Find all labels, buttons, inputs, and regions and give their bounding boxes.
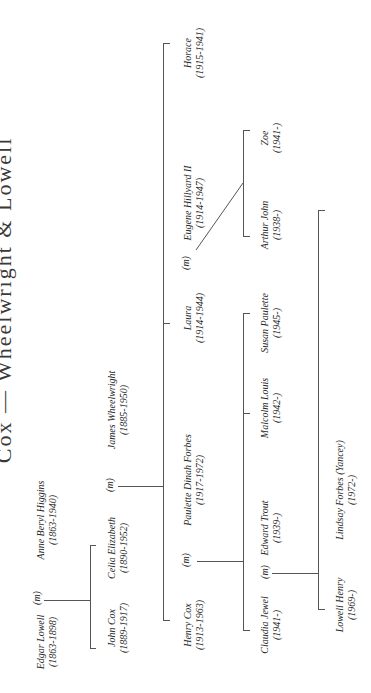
- person-edgar-lowell: Edgar Lowell (1863-1898): [35, 615, 58, 670]
- person-name: Celia Elizabeth: [106, 517, 118, 579]
- chart-title: Cox — Wheelwright & Lowell: [0, 137, 17, 464]
- person-dates: (1941-): [270, 123, 282, 153]
- sibling-bracket: [90, 545, 91, 649]
- person-name: Edgar Lowell: [35, 615, 47, 670]
- person-dates: (1914-1944): [193, 293, 205, 343]
- person-name: Paulette Dinah Forbes: [182, 434, 194, 526]
- sibling-bracket: [318, 210, 319, 610]
- marriage-label: (m): [259, 565, 271, 579]
- person-name: Anne Beryl Higgins: [35, 481, 47, 560]
- person-name: Edward Trout: [259, 500, 271, 555]
- person-dates: (1863-1940): [46, 481, 58, 560]
- person-celia-elizabeth: Celia Elizabeth (1890-1952): [106, 517, 129, 579]
- person-name: Eugene Hillyard II: [182, 165, 194, 240]
- sibling-bracket: [243, 313, 244, 631]
- person-dates: (1942-): [270, 378, 282, 438]
- marriage-line: [197, 561, 243, 562]
- person-dates: (1969-): [345, 578, 357, 633]
- bracket-tick: [90, 648, 96, 649]
- person-james-wheelwright: James Wheelwright (1885-1950): [106, 371, 129, 450]
- bracket-tick: [243, 236, 250, 237]
- person-dates: (1945-): [270, 293, 282, 353]
- person-zoe: Zoe (1941-): [259, 123, 282, 153]
- bracket-tick: [243, 413, 250, 414]
- sibling-bracket: [163, 43, 164, 621]
- person-anne-beryl-higgins: Anne Beryl Higgins (1863-1940): [35, 481, 58, 560]
- person-dates: (1885-1950): [117, 371, 129, 450]
- person-name: Arthur John: [259, 201, 271, 250]
- person-malcolm-louis: Malcolm Louis (1942-): [259, 378, 282, 438]
- person-dates: (1938-): [270, 201, 282, 250]
- bracket-tick: [243, 630, 250, 631]
- marriage-label: (m): [180, 553, 192, 567]
- person-name: Laura: [182, 293, 194, 343]
- person-laura: Laura (1914-1944): [182, 293, 205, 343]
- person-claudia-jewel: Claudia Jewel (1941-): [259, 596, 282, 654]
- bracket-tick: [318, 210, 325, 211]
- person-dates: (1915-1941): [193, 28, 205, 78]
- person-henry-cox: Henry Cox (1913-1963): [182, 600, 205, 650]
- bracket-tick: [90, 545, 96, 546]
- bracket-tick: [243, 313, 250, 314]
- person-lindsay-forbes-yancey: Lindsay Forbes (Yancey) (1972-): [334, 440, 357, 540]
- bracket-tick: [163, 620, 170, 621]
- person-arthur-john: Arthur John (1938-): [259, 201, 282, 250]
- person-dates: (1941-): [270, 596, 282, 654]
- person-edward-trout: Edward Trout (1939-): [259, 500, 282, 555]
- bracket-tick: [163, 323, 170, 324]
- bracket-tick: [318, 609, 325, 610]
- person-dates: (1863-1898): [46, 615, 58, 670]
- person-dates: (1890-1952): [117, 517, 129, 579]
- marriage-line: [272, 573, 318, 574]
- person-name: Zoe: [259, 123, 271, 153]
- person-name: Claudia Jewel: [259, 596, 271, 654]
- sibling-bracket: [243, 130, 244, 237]
- person-lowell-henry: Lowell Henry (1969-): [334, 578, 357, 633]
- person-john-cox: John Cox (1889-1917): [106, 603, 129, 653]
- person-name: Lowell Henry: [334, 578, 346, 633]
- marriage-diagonal-line: [0, 0, 371, 693]
- person-name: Susan Paulette: [259, 293, 271, 353]
- bracket-tick: [163, 43, 170, 44]
- marriage-line: [118, 486, 164, 487]
- bracket-tick: [243, 130, 250, 131]
- person-name: James Wheelwright: [106, 371, 118, 450]
- person-dates: (1913-1963): [193, 600, 205, 650]
- person-dates: (1939-): [270, 500, 282, 555]
- person-name: Lindsay Forbes (Yancey): [334, 440, 346, 540]
- person-name: Malcolm Louis: [259, 378, 271, 438]
- person-horace: Horace (1915-1941): [182, 28, 205, 78]
- person-dates: (1972-): [345, 440, 357, 540]
- person-paulette-dinah-forbes: Paulette Dinah Forbes (1917-1972): [182, 434, 205, 526]
- marriage-label: (m): [31, 591, 43, 605]
- person-name: John Cox: [106, 603, 118, 653]
- person-name: Henry Cox: [182, 600, 194, 650]
- marriage-label: (m): [180, 256, 192, 270]
- marriage-label: (m): [104, 478, 116, 492]
- person-eugene-hillyard-ii: Eugene Hillyard II (1914-1947): [182, 165, 205, 240]
- person-susan-paulette: Susan Paulette (1945-): [259, 293, 282, 353]
- marriage-line: [44, 600, 91, 601]
- person-dates: (1917-1972): [193, 434, 205, 526]
- person-name: Horace: [182, 28, 194, 78]
- person-dates: (1914-1947): [193, 165, 205, 240]
- person-dates: (1889-1917): [117, 603, 129, 653]
